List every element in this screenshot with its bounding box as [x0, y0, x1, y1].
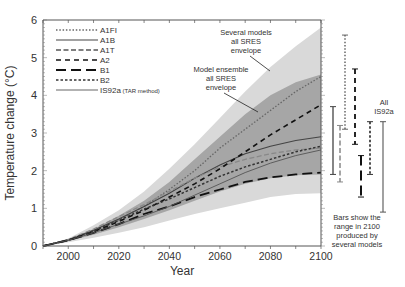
- annotation-all-is92a: All IS92a: [374, 98, 394, 116]
- legend-label: A1B: [100, 36, 115, 45]
- chart-root: 0123456200020202040206020802100 Temperat…: [0, 0, 405, 287]
- svg-text:Several models: Several models: [220, 28, 272, 37]
- svg-text:All: All: [380, 98, 389, 107]
- y-tick-label: 6: [31, 14, 37, 26]
- x-tick-label: 2020: [107, 250, 131, 262]
- legend-label: A2: [100, 56, 110, 65]
- x-tick-label: 2080: [259, 250, 283, 262]
- x-tick-label: 2000: [57, 250, 81, 262]
- y-tick-label: 3: [31, 127, 37, 139]
- legend: A1FIA1BA1TA2B1B2IS92a (TAR method): [56, 26, 160, 95]
- x-tick-label: 2060: [208, 250, 232, 262]
- svg-text:several models: several models: [332, 240, 383, 249]
- arrow-several: [250, 56, 270, 71]
- y-tick-label: 5: [31, 52, 37, 64]
- x-tick-label: 2100: [309, 250, 333, 262]
- svg-text:range in 2100: range in 2100: [334, 222, 380, 231]
- x-axis-label: Year: [170, 264, 194, 278]
- svg-text:envelope: envelope: [231, 46, 261, 55]
- y-tick-label: 4: [31, 89, 37, 101]
- svg-text:all SRES: all SRES: [231, 37, 261, 46]
- legend-label: A1FI: [100, 26, 117, 35]
- svg-text:produced by: produced by: [336, 231, 378, 240]
- svg-text:envelope: envelope: [206, 83, 236, 92]
- range-bars-2100: [330, 35, 386, 212]
- legend-label: B1: [100, 66, 110, 75]
- y-tick-label: 2: [31, 165, 37, 177]
- legend-label: IS92a (TAR method): [100, 86, 160, 95]
- y-axis-label: Temperature change (°C): [3, 66, 17, 201]
- x-tick-label: 2040: [158, 250, 182, 262]
- svg-text:Bars show the: Bars show the: [333, 213, 381, 222]
- svg-text:all SRES: all SRES: [206, 74, 236, 83]
- svg-text:Model ensemble: Model ensemble: [193, 65, 248, 74]
- legend-label: B2: [100, 76, 110, 85]
- annotation-bars: Bars show the range in 2100 produced by …: [332, 213, 383, 249]
- y-tick-label: 0: [31, 240, 37, 252]
- svg-text:IS92a: IS92a: [374, 107, 394, 116]
- legend-label: A1T: [100, 46, 115, 55]
- y-tick-label: 1: [31, 202, 37, 214]
